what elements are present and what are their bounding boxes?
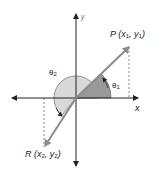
point-r-name: R ( [25,149,37,159]
theta2-label: θ2 [49,69,57,77]
x-axis-label: x [135,104,140,113]
vector-angle-diagram: y x P (x1, y1) R (x2, y2) θ1 θ2 [0,0,163,176]
theta1-label: θ1 [112,82,120,90]
point-r-label: R (x2, y2) [25,150,61,159]
point-p-name: P ( [110,29,121,39]
theta1-sub: 1 [116,84,119,90]
y-axis-label: y [81,13,85,20]
p-suffix: ) [142,29,145,39]
r-suffix: ) [58,149,61,159]
theta2-sub: 2 [53,71,56,77]
point-p-label: P (x1, y1) [110,30,145,39]
